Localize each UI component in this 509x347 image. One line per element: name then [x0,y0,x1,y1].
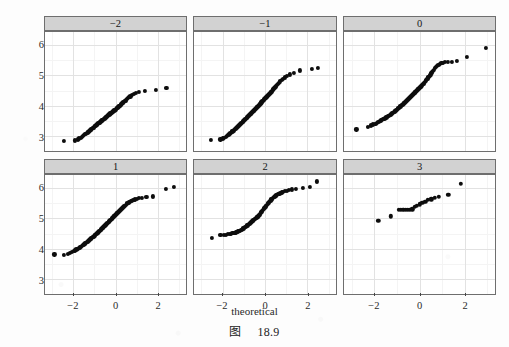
figure-caption: 图18.9 [0,322,509,340]
gridline-major-horizontal [194,75,336,76]
facet-panel-2: 2 [193,159,337,295]
data-point [151,194,155,198]
gridline-major-vertical [73,32,74,151]
facet-strip-label-2: 2 [193,159,337,174]
x-tick-mark [374,293,375,296]
facet-strip-label-0: 0 [343,16,496,31]
y-tick-label: 6 [22,182,44,193]
gridline-major-vertical [265,175,266,294]
x-tick-mark [265,293,266,296]
gridline-major-horizontal [45,249,186,250]
gridline-major-horizontal [344,75,495,76]
data-point [62,139,66,143]
gridline-major-horizontal [194,249,336,250]
y-tick-label: 3 [22,132,44,143]
y-tick-label: 5 [22,70,44,81]
data-point [298,68,302,72]
data-point [310,67,314,71]
plot-area [44,174,187,295]
gridline-major-horizontal [45,218,186,219]
facet-strip-label-3: 3 [343,159,496,174]
facet-panel-neg2: −2 [44,16,187,152]
data-point [437,195,441,199]
plot-area [343,174,496,295]
gridline-major-horizontal [45,45,186,46]
gridline-major-horizontal [344,218,495,219]
gridline-major-vertical [73,175,74,294]
gridline-major-vertical [420,175,421,294]
facet-panel-3: 3 [343,159,496,295]
y-tick-label: 6 [22,39,44,50]
data-point [209,236,213,240]
x-tick-mark [308,293,309,296]
y-tick-label: 5 [22,213,44,224]
data-point [446,192,450,196]
data-point [164,187,168,191]
x-tick-mark [158,293,159,296]
data-point [52,252,56,256]
x-tick-mark [73,293,74,296]
gridline-major-horizontal [194,106,336,107]
gridline-major-vertical [307,175,308,294]
data-point [294,187,298,191]
gridline-major-vertical [158,175,159,294]
facet-strip-label-neg2: −2 [44,16,187,31]
gridline-major-horizontal [45,75,186,76]
gridline-major-vertical [420,32,421,151]
gridline-major-horizontal [344,188,495,189]
data-point [459,182,463,186]
gridline-major-horizontal [344,136,495,137]
gridline-major-horizontal [344,106,495,107]
gridline-major-horizontal [194,136,336,137]
gridline-major-vertical [465,32,466,151]
caption-cjk-label: 图 [229,325,241,339]
data-point [376,219,380,223]
gridline-major-vertical [374,175,375,294]
gridline-major-vertical [307,32,308,151]
caption-number: 18.9 [257,325,279,339]
plot-area [343,31,496,152]
x-tick-mark [465,293,466,296]
data-point [301,186,305,190]
data-point [209,138,213,142]
facet-strip-label-neg1: −1 [193,16,337,31]
data-point [465,55,469,59]
y-tick-label: 3 [22,275,44,286]
data-point [164,86,168,90]
x-tick-mark [222,293,223,296]
data-point [315,66,319,70]
facet-panel-0: 0 [343,16,496,152]
gridline-major-vertical [374,32,375,151]
gridline-major-vertical [265,32,266,151]
plot-area [44,31,187,152]
gridline-major-horizontal [194,45,336,46]
facet-panel-1: 1 [44,159,187,295]
data-point [455,59,459,63]
data-point [315,179,319,183]
y-tick-label: 4 [22,101,44,112]
facet-panel-neg1: −1 [193,16,337,152]
gridline-major-horizontal [344,45,495,46]
gridline-major-vertical [116,175,117,294]
gridline-major-horizontal [194,188,336,189]
data-point [142,89,146,93]
gridline-major-horizontal [344,249,495,250]
data-point [449,60,453,64]
facet-strip-label-1: 1 [44,159,187,174]
y-axis-row-bottom: 3456 [18,174,44,295]
plot-area [193,174,337,295]
gridline-major-vertical [158,32,159,151]
figure-container: sample 3456 3456 −2−10123 −202−202−202 t… [0,0,509,347]
gridline-major-horizontal [194,218,336,219]
x-axis-title: theoretical [0,305,509,317]
gridline-major-horizontal [45,279,186,280]
data-point [292,70,296,74]
data-point [144,195,148,199]
data-point [137,90,141,94]
gridline-major-horizontal [45,136,186,137]
gridline-major-horizontal [194,279,336,280]
x-tick-mark [420,293,421,296]
y-axis-row-top: 3456 [18,31,44,152]
data-point [354,127,358,131]
plot-area [193,31,337,152]
